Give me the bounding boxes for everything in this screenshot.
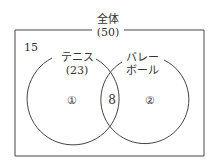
region-2-label: ② xyxy=(140,94,160,107)
universe-label: 全体 xyxy=(88,13,128,26)
volleyball-label-line2: ボール xyxy=(122,64,162,77)
volleyball-label-line1: バレー xyxy=(122,51,162,64)
tennis-count: (23) xyxy=(55,64,99,77)
intersection-count: 8 xyxy=(104,94,120,107)
universe-count: (50) xyxy=(88,26,128,39)
tennis-label: テニス xyxy=(55,51,99,64)
region-1-label: ① xyxy=(62,94,82,107)
outside-count: 15 xyxy=(24,41,38,54)
